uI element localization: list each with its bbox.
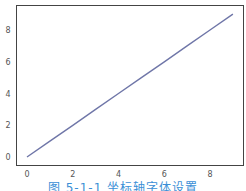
- y-tick-label: 4: [5, 90, 10, 99]
- y-axis-ticks: 02468: [5, 26, 10, 162]
- x-tick-label: 0: [24, 170, 29, 179]
- y-tick-label: 8: [5, 26, 10, 35]
- x-tick-label: 8: [207, 170, 212, 179]
- x-tick-label: 4: [116, 170, 121, 179]
- y-tick-label: 0: [5, 153, 10, 162]
- y-tick-label: 6: [5, 58, 10, 67]
- y-tick-label: 2: [5, 121, 10, 130]
- figure-caption: 图 5-1-1 坐标轴字体设置: [0, 181, 246, 191]
- x-tick-label: 2: [70, 170, 75, 179]
- chart: 02468 02468: [0, 0, 246, 191]
- x-tick-label: 6: [162, 170, 167, 179]
- x-axis-ticks: 02468: [24, 170, 212, 179]
